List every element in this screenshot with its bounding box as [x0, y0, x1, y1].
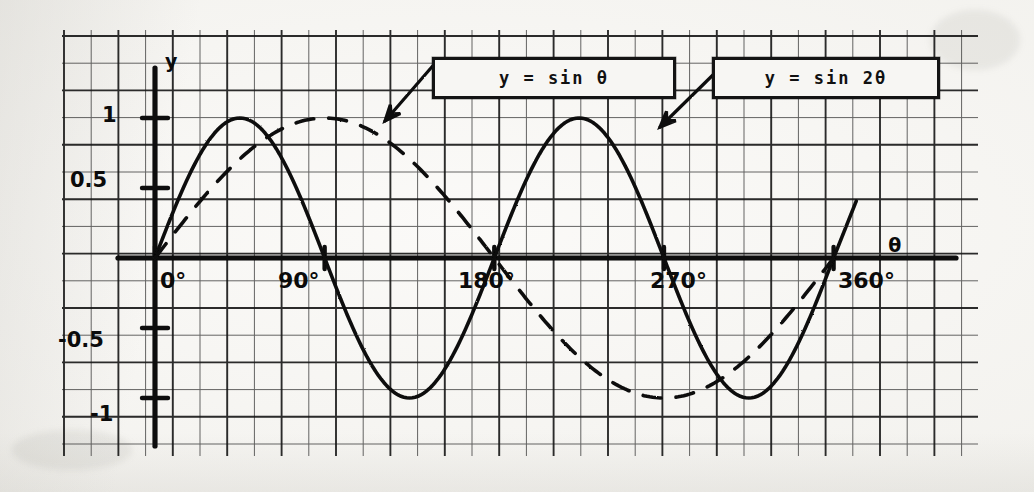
x-tick-label-180: 180° [458, 268, 515, 293]
y-tick-label-neg1: -1 [90, 402, 113, 426]
x-tick-label-270: 270° [650, 268, 707, 293]
graph-page: y θ 1 0.5 -0.5 -1 0° 90° 180° 270° 360° … [0, 0, 1034, 492]
y-axis-label: y [165, 50, 177, 72]
x-axis-label: θ [888, 234, 901, 256]
y-tick-label-0_5: 0.5 [70, 168, 107, 192]
x-tick-label-0: 0° [160, 268, 186, 293]
y-tick-label-neg0_5: -0.5 [58, 328, 104, 352]
y-tick-label-1: 1 [102, 103, 117, 127]
legend-box-sin-2theta[interactable]: y = sin 2θ [712, 57, 940, 99]
x-tick-label-360: 360° [838, 268, 895, 293]
legend-box-sin-theta[interactable]: y = sin θ [432, 57, 676, 99]
x-tick-label-90: 90° [278, 268, 320, 293]
